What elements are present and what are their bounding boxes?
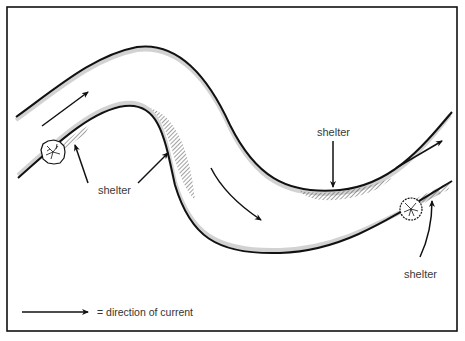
shelter-label-top-right: shelter (317, 127, 350, 138)
shelter-pointer-left (75, 145, 88, 183)
current-arrow-right (396, 141, 442, 168)
river-bank-upper (16, 46, 452, 190)
bush-left-icon (41, 140, 65, 164)
river-diagram (0, 0, 465, 341)
diagram-canvas: shelter shelter shelter = direction of c… (0, 0, 465, 341)
bush-right-icon (400, 198, 422, 220)
legend-label: = direction of current (97, 307, 193, 318)
shelter-pointer-arrows (75, 141, 432, 257)
shelter-pointer-center (138, 153, 168, 183)
current-arrow-middle (211, 168, 261, 220)
shelter-label-bottom-right: shelter (404, 269, 437, 280)
frame-border (7, 7, 457, 331)
shelter-label-left: shelter (98, 185, 131, 196)
